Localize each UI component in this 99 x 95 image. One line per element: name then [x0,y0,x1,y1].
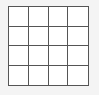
grid-cell[interactable] [9,7,29,27]
grid-container[interactable] [8,6,89,86]
grid-cell[interactable] [68,46,88,66]
grid-cell[interactable] [9,66,29,86]
grid-cell[interactable] [29,66,49,86]
grid-cell[interactable] [68,66,88,86]
grid-cell[interactable] [49,66,69,86]
grid-cell[interactable] [49,7,69,27]
grid-cell[interactable] [9,46,29,66]
grid-cell[interactable] [68,7,88,27]
grid-cell[interactable] [29,7,49,27]
grid-cell[interactable] [68,27,88,47]
grid-cell[interactable] [49,46,69,66]
grid-cell[interactable] [29,46,49,66]
grid-cell[interactable] [29,27,49,47]
grid-cell[interactable] [49,27,69,47]
grid-cell[interactable] [9,27,29,47]
